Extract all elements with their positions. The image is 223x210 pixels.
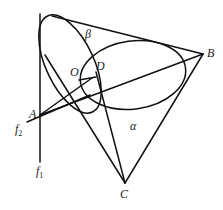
label-beta: β [84,27,91,41]
label-A: A [28,107,37,121]
line-f2 [27,95,90,122]
label-O: O [70,65,79,79]
geometry-figure: β α B C A O D f2 f1 [0,0,223,210]
label-C: C [120,187,129,201]
label-alpha: α [130,119,137,133]
line-B-to-C [125,54,203,183]
label-f1: f1 [36,164,43,180]
label-f2: f2 [15,122,22,138]
line-top-to-B [52,16,203,54]
label-D: D [95,59,105,73]
line-O-to-D [79,77,96,80]
label-B: B [207,46,215,60]
line-A-to-D [40,78,92,115]
line-C-left-tangent [45,55,125,183]
